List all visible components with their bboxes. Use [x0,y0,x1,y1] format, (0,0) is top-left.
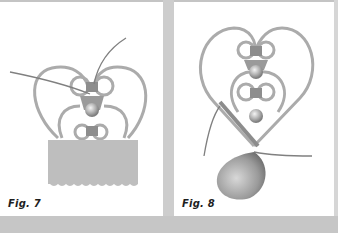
fig8-illustration [174,2,334,216]
fabric-piece [48,140,138,186]
teardrop-pendant [217,152,266,200]
bottom-border [0,216,338,233]
figure-panel-8: Fig. 8 [174,2,334,216]
figure-caption: Fig. 8 [182,198,215,209]
right-border [334,0,338,218]
panel-divider [163,0,174,218]
figure-panel-7: Fig. 7 [0,2,163,216]
bead-cluster-lower [249,88,263,123]
wrap [220,102,258,146]
wire-frame [200,28,312,146]
fig7-illustration [0,2,163,216]
bead-cluster [80,82,104,136]
bead-cluster-upper [244,46,268,79]
figure-caption: Fig. 7 [8,198,41,209]
thread [10,38,126,94]
